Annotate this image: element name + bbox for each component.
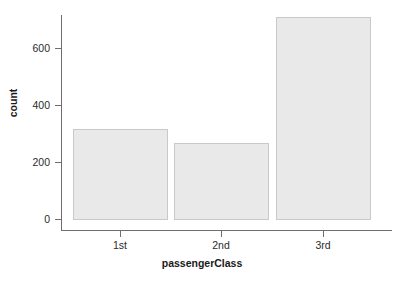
- bar-2nd: [174, 143, 269, 220]
- bar-1st: [73, 129, 168, 220]
- y-tick-label-1: 200: [32, 157, 50, 168]
- y-axis-title: count: [8, 89, 19, 118]
- y-tick-mark-2: [55, 105, 61, 106]
- bar-chart: 0 200 400 600 1st 2nd 3rd passengerClass…: [0, 0, 404, 282]
- y-axis-line: [61, 15, 62, 231]
- y-tick-mark-1: [55, 162, 61, 163]
- y-tick-mark-0: [55, 219, 61, 220]
- x-tick-mark-3rd: [323, 231, 324, 237]
- x-tick-label-3rd: 3rd: [315, 240, 330, 251]
- x-tick-mark-1st: [120, 231, 121, 237]
- x-axis-title: passengerClass: [0, 258, 404, 269]
- y-tick-label-2: 400: [32, 100, 50, 111]
- y-tick-label-3: 600: [32, 43, 50, 54]
- y-tick-mark-3: [55, 48, 61, 49]
- y-tick-label-0: 0: [44, 214, 50, 225]
- x-tick-mark-2nd: [221, 231, 222, 237]
- x-axis-line: [61, 230, 392, 231]
- x-tick-label-2nd: 2nd: [212, 240, 230, 251]
- x-tick-label-1st: 1st: [113, 240, 127, 251]
- bar-3rd: [276, 17, 371, 220]
